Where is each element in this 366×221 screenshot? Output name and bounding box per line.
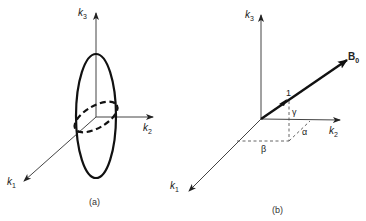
b0-label: B0	[348, 51, 359, 64]
k1-axis-b	[189, 119, 261, 191]
k1-label-a: k1	[7, 176, 16, 189]
panel-a: k3 k2 k1 (a)	[7, 7, 153, 207]
panel-b: k3 k2 k1 B0 1 γ α β (b)	[170, 9, 359, 215]
k1-axis-a	[24, 117, 96, 181]
k1-label-b: k1	[170, 180, 179, 193]
figure-canvas: k3 k2 k1 (a) k3 k2 k1	[0, 0, 366, 221]
alpha-label: α	[302, 127, 307, 137]
k3-label-b: k3	[245, 9, 254, 22]
k3-label-a: k3	[78, 7, 87, 20]
b0-vector	[261, 60, 347, 119]
unit-label: 1	[286, 88, 291, 98]
k2-label-a: k2	[143, 122, 152, 135]
caption-b: (b)	[272, 205, 283, 215]
k2-axis-b	[261, 119, 340, 120]
beta-label: β	[261, 144, 266, 154]
caption-a: (a)	[89, 197, 100, 207]
gamma-label: γ	[292, 107, 297, 117]
k2-label-b: k2	[329, 125, 338, 138]
